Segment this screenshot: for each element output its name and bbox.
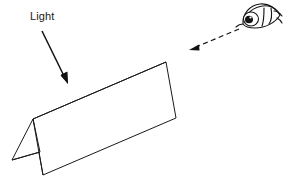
eye-highlight xyxy=(249,17,251,19)
eye-pupil xyxy=(245,16,253,24)
eye-lash-outer-2 xyxy=(277,18,282,23)
eye-icon xyxy=(236,4,282,28)
eye-lower-lid xyxy=(236,24,243,27)
view-arrow-head xyxy=(189,45,200,51)
light-direction-arrow xyxy=(42,31,68,84)
diagram-svg xyxy=(0,0,285,187)
light-arrow-shaft xyxy=(42,31,64,76)
paper-front-face xyxy=(33,62,176,175)
folded-paper xyxy=(12,62,176,175)
figure-canvas: Light xyxy=(0,0,285,187)
light-arrow-head-fill xyxy=(61,72,69,85)
light-label: Light xyxy=(30,10,54,23)
viewing-direction-arrow xyxy=(189,29,239,51)
view-arrow-shaft xyxy=(196,29,239,47)
